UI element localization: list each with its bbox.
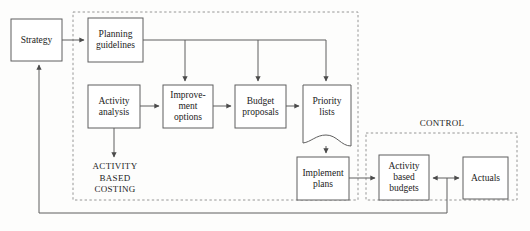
node-outlines: [11, 18, 508, 200]
diagram-svg: [0, 0, 530, 231]
planning-guidelines-box[interactable]: [88, 18, 143, 62]
improvement-options-box[interactable]: [163, 85, 213, 128]
diagram-canvas-container: Strategy Planning guidelines Activity an…: [0, 0, 530, 231]
activity-based-budgets-box[interactable]: [379, 155, 429, 200]
priority-lists-document-shape[interactable]: [303, 85, 351, 146]
strategy-box[interactable]: [11, 19, 62, 61]
actuals-box[interactable]: [463, 157, 508, 199]
budget-proposals-box[interactable]: [235, 85, 286, 128]
implement-plans-box[interactable]: [297, 157, 349, 200]
activity-analysis-box[interactable]: [88, 85, 140, 128]
